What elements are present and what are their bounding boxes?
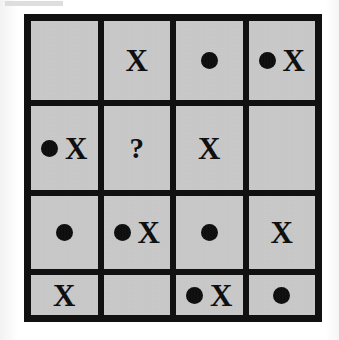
dot-icon: [41, 140, 58, 157]
x-mark: X: [53, 280, 75, 311]
dot-icon: [201, 52, 218, 69]
x-mark: X: [283, 45, 305, 76]
dot-icon: [259, 52, 276, 69]
question-mark: ?: [130, 134, 145, 163]
dot-icon: [56, 224, 73, 241]
dot-icon: [186, 287, 203, 304]
cell-content: X: [53, 280, 75, 311]
puzzle-cell-r1c3[interactable]: [176, 21, 243, 100]
puzzle-cell-r2c2[interactable]: ?: [104, 106, 171, 190]
puzzle-grid: XXX?XXXXX: [24, 14, 322, 322]
cell-content: [273, 287, 290, 304]
cell-content: [201, 52, 218, 69]
cell-content: X: [41, 133, 87, 164]
puzzle-cell-r4c2[interactable]: [104, 275, 171, 315]
cell-content: X: [259, 45, 305, 76]
puzzle-cell-r3c4[interactable]: X: [249, 196, 316, 269]
x-mark: X: [138, 217, 160, 248]
cell-content: X: [186, 280, 232, 311]
dot-icon: [273, 287, 290, 304]
puzzle-cell-r3c1[interactable]: [31, 196, 98, 269]
x-mark: X: [271, 217, 293, 248]
cell-content: [201, 224, 218, 241]
cell-content: X: [271, 217, 293, 248]
puzzle-cell-r4c3[interactable]: X: [176, 275, 243, 315]
x-mark: X: [65, 133, 87, 164]
puzzle-cell-r1c4[interactable]: X: [249, 21, 316, 100]
puzzle-cell-r1c1[interactable]: [31, 21, 98, 100]
puzzle-cell-r2c3[interactable]: X: [176, 106, 243, 190]
puzzle-cell-r2c4[interactable]: [249, 106, 316, 190]
x-mark: X: [210, 280, 232, 311]
puzzle-cell-r4c1[interactable]: X: [31, 275, 98, 315]
scan-artifact-smudge: [5, 1, 63, 6]
cell-content: X: [114, 217, 160, 248]
puzzle-cell-r2c1[interactable]: X: [31, 106, 98, 190]
x-mark: X: [126, 45, 148, 76]
cell-content: X: [126, 45, 148, 76]
cell-content: ?: [130, 134, 145, 163]
x-mark: X: [198, 133, 220, 164]
puzzle-cell-r3c3[interactable]: [176, 196, 243, 269]
dot-icon: [201, 224, 218, 241]
cell-content: X: [198, 133, 220, 164]
puzzle-cell-r1c2[interactable]: X: [104, 21, 171, 100]
puzzle-cell-r4c4[interactable]: [249, 275, 316, 315]
cell-content: [56, 224, 73, 241]
puzzle-cell-r3c2[interactable]: X: [104, 196, 171, 269]
dot-icon: [114, 224, 131, 241]
